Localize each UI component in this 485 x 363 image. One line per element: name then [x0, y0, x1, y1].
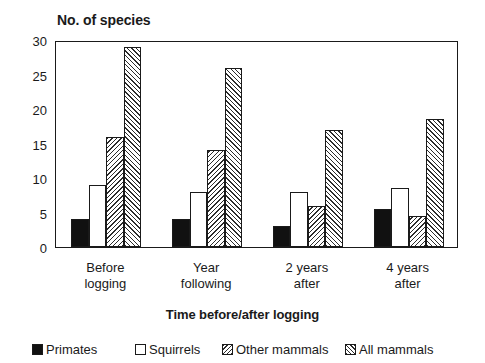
y-tick-label: 30 [17, 35, 47, 48]
y-tick-label: 15 [17, 138, 47, 151]
bar-primates-group-1 [71, 219, 89, 247]
bar-primates-group-2 [172, 219, 190, 247]
species-bar-chart-figure: No. of species 051015202530 Before loggi… [0, 0, 485, 363]
legend-item-label: Primates [46, 342, 97, 357]
bar-squirrels-group-2 [190, 192, 208, 247]
bar-all-mammals-group-1 [124, 47, 142, 247]
chart-title: No. of species [57, 12, 151, 28]
plot-area [56, 42, 457, 247]
x-group-label-1: Before logging [55, 260, 156, 292]
legend-item-other-mammals[interactable]: Other mammals [222, 342, 328, 357]
legend-swatch-icon [135, 344, 146, 355]
legend-item-all-mammals[interactable]: All mammals [345, 342, 433, 357]
y-tick-label: 5 [17, 207, 47, 220]
bar-all-mammals-group-4 [426, 119, 444, 247]
bar-primates-group-4 [374, 209, 392, 247]
legend-item-label: Squirrels [149, 342, 200, 357]
x-group-label-3: 2 years after [257, 260, 358, 292]
legend-swatch-icon [345, 344, 356, 355]
bar-all-mammals-group-2 [225, 68, 243, 247]
x-group-label-4: 4 years after [357, 260, 458, 292]
legend-item-label: All mammals [359, 342, 433, 357]
y-tick-label: 25 [17, 69, 47, 82]
bar-other-mammals-group-3 [308, 206, 326, 247]
plot-frame [55, 41, 458, 248]
legend-item-label: Other mammals [236, 342, 328, 357]
legend-swatch-icon [32, 344, 43, 355]
bar-squirrels-group-4 [391, 188, 409, 247]
bar-squirrels-group-1 [89, 185, 107, 247]
x-axis-title: Time before/after logging [0, 307, 485, 322]
legend-item-squirrels[interactable]: Squirrels [135, 342, 200, 357]
bar-primates-group-3 [273, 226, 291, 247]
legend-item-primates[interactable]: Primates [32, 342, 97, 357]
bar-other-mammals-group-2 [207, 150, 225, 247]
x-group-label-2: Year following [156, 260, 257, 292]
legend-swatch-icon [222, 344, 233, 355]
y-tick-label: 10 [17, 173, 47, 186]
y-tick-label: 20 [17, 104, 47, 117]
bar-all-mammals-group-3 [325, 130, 343, 247]
bar-squirrels-group-3 [290, 192, 308, 247]
bar-other-mammals-group-4 [409, 216, 427, 247]
chart-legend: PrimatesSquirrelsOther mammalsAll mammal… [0, 342, 485, 362]
bar-other-mammals-group-1 [106, 137, 124, 247]
y-tick-label: 0 [17, 242, 47, 255]
